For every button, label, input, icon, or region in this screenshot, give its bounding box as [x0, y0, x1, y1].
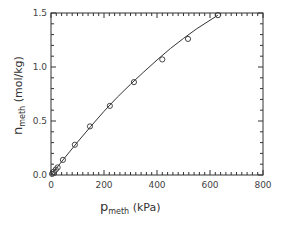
data-point-marker [107, 103, 112, 108]
x-tick-label: 600 [201, 180, 218, 190]
data-point-marker [185, 36, 190, 41]
data-markers [49, 13, 220, 177]
x-axis-label: pmeth (kPa) [100, 199, 161, 216]
plot-frame [51, 13, 263, 175]
x-tick-labels: 0200400600800 [48, 180, 272, 190]
data-point-marker [87, 124, 92, 129]
x-tick-label: 400 [148, 180, 165, 190]
x-tick-label: 200 [95, 180, 112, 190]
y-tick-labels: 0.00.51.01.5 [33, 8, 48, 180]
y-tick-label: 1.0 [33, 62, 48, 72]
y-tick-label: 1.5 [33, 8, 47, 18]
y-axis-label: nmeth (mol/kg) [10, 56, 27, 135]
fit-curve [51, 15, 218, 175]
x-tick-label: 800 [254, 180, 271, 190]
axis-ticks [51, 13, 263, 175]
y-tick-label: 0.0 [33, 170, 48, 180]
x-tick-label: 0 [48, 180, 54, 190]
y-tick-label: 0.5 [33, 116, 47, 126]
data-point-marker [160, 57, 165, 62]
isotherm-chart: 0200400600800 0.00.51.01.5 pmeth (kPa) n… [0, 0, 282, 225]
